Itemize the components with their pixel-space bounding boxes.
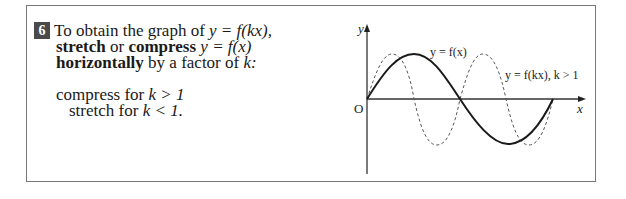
y-axis-label: y [356,21,364,36]
x-axis-label: x [576,101,583,116]
transformation-graph: y x O y = f(x) y = f(kx), k > 1 [0,0,626,199]
y-axis-arrow-icon [364,24,370,32]
solid-curve-label: y = f(x) [430,45,467,59]
origin-label: O [354,101,363,116]
dashed-curve-label: y = f(kx), k > 1 [505,68,579,82]
